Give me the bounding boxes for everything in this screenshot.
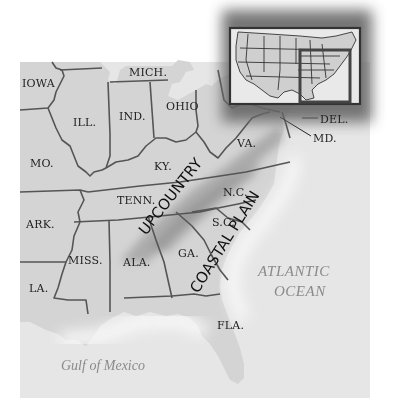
label-va: VA. bbox=[236, 137, 256, 150]
label-ga: GA. bbox=[178, 247, 199, 260]
label-fla: FLA. bbox=[217, 319, 244, 332]
label-atlantic: ATLANTIC bbox=[257, 263, 330, 279]
label-md: MD. bbox=[313, 132, 337, 145]
label-del: DEL. bbox=[320, 113, 348, 126]
southeast-us-map: IOWA ILL. IND. OHIO MICH. MO. KY. VA. TE… bbox=[0, 0, 394, 408]
label-ocean: OCEAN bbox=[274, 283, 326, 299]
inset-locator-map bbox=[222, 10, 372, 122]
label-ark: ARK. bbox=[25, 218, 55, 231]
label-iowa: IOWA bbox=[22, 77, 56, 90]
label-ind: IND. bbox=[119, 110, 146, 123]
label-ill: ILL. bbox=[73, 116, 96, 129]
label-miss: MISS. bbox=[68, 254, 103, 267]
label-gulf-of-mexico: Gulf of Mexico bbox=[61, 358, 145, 373]
label-mich: MICH. bbox=[129, 66, 167, 79]
label-mo: MO. bbox=[30, 157, 54, 170]
label-la: LA. bbox=[29, 282, 48, 295]
label-tenn: TENN. bbox=[117, 194, 155, 207]
label-ky: KY. bbox=[154, 160, 172, 173]
label-ohio: OHIO bbox=[166, 100, 199, 113]
label-ala: ALA. bbox=[122, 256, 151, 269]
